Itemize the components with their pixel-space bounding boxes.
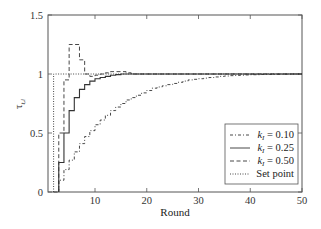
y-tick-label: 0.5 — [30, 128, 43, 139]
y-tick-label: 1.5 — [30, 10, 43, 21]
x-tick-label: 40 — [245, 195, 256, 206]
y-axis-title: τt,i — [12, 99, 27, 109]
x-tick-label: 50 — [297, 195, 308, 206]
legend: kI = 0.10kI = 0.25kI = 0.50Set point — [225, 124, 298, 184]
y-axis-title-sub: t,i — [19, 99, 27, 105]
x-axis-title: Round — [160, 206, 190, 218]
legend-label: Set point — [256, 168, 294, 179]
line-chart: 102030405000.511.5 Round τt,i kI = 0.10k… — [0, 0, 321, 229]
y-tick-label: 1 — [38, 69, 43, 80]
svg-text:τt,i: τt,i — [12, 99, 27, 109]
x-tick-label: 10 — [90, 195, 101, 206]
x-tick-label: 30 — [193, 195, 204, 206]
y-tick-label: 0 — [38, 187, 43, 198]
x-tick-label: 20 — [142, 195, 153, 206]
